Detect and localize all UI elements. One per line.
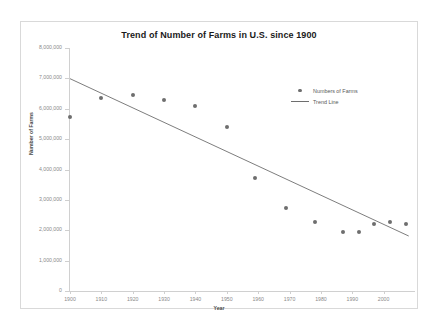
x-tick <box>101 291 102 294</box>
x-tick <box>227 291 228 294</box>
plot-area <box>70 48 415 291</box>
chart-screenshot: Trend of Number of Farms in U.S. since 1… <box>0 0 437 334</box>
y-tick-label: 3,000,000 <box>39 196 62 202</box>
dot-icon <box>298 89 302 93</box>
x-tick <box>195 291 196 294</box>
y-tick-label: 0 <box>59 287 62 293</box>
data-point <box>68 115 72 119</box>
x-tick <box>133 291 134 294</box>
legend-line-icon <box>289 101 311 102</box>
legend-marker-icon <box>289 89 311 93</box>
y-tick: 3,000,000 <box>65 200 69 201</box>
legend-item[interactable]: Trend Line <box>289 96 358 107</box>
y-tick-label: 6,000,000 <box>39 105 62 111</box>
x-tick <box>290 291 291 294</box>
y-tick: 6,000,000 <box>65 109 69 110</box>
legend-label: Numbers of Farms <box>311 88 358 94</box>
x-tick-label: 1910 <box>96 296 108 302</box>
x-tick-label: 1960 <box>252 296 264 302</box>
y-tick-label: 8,000,000 <box>39 44 62 50</box>
legend-label: Trend Line <box>311 99 339 105</box>
y-tick: 2,000,000 <box>65 230 69 231</box>
x-tick-label: 1930 <box>158 296 170 302</box>
y-tick: 5,000,000 <box>65 139 69 140</box>
data-point <box>404 222 408 226</box>
x-tick-label: 1900 <box>64 296 76 302</box>
y-tick: 4,000,000 <box>65 170 69 171</box>
y-tick: 8,000,000 <box>65 48 69 49</box>
data-point <box>162 98 166 102</box>
x-tick <box>384 291 385 294</box>
x-tick <box>321 291 322 294</box>
line-icon <box>291 101 309 102</box>
trend-line <box>70 48 415 291</box>
y-tick-label: 7,000,000 <box>39 74 62 80</box>
x-tick-label: 1970 <box>284 296 296 302</box>
y-tick-label: 5,000,000 <box>39 135 62 141</box>
y-tick-label: 1,000,000 <box>39 257 62 263</box>
chart-legend: Numbers of FarmsTrend Line <box>289 85 358 107</box>
legend-item[interactable]: Numbers of Farms <box>289 85 358 96</box>
x-tick-label: 1940 <box>190 296 202 302</box>
x-tick-label: 1980 <box>315 296 327 302</box>
x-tick-label: 1920 <box>127 296 139 302</box>
chart-title: Trend of Number of Farms in U.S. since 1… <box>21 30 417 40</box>
y-tick: 0 <box>65 291 69 292</box>
trend-line-path <box>70 79 409 236</box>
y-tick-label: 2,000,000 <box>39 226 62 232</box>
x-axis-line <box>69 291 415 292</box>
x-tick <box>352 291 353 294</box>
x-axis-title: Year <box>21 305 417 311</box>
data-point <box>131 93 135 97</box>
y-tick-label: 4,000,000 <box>39 166 62 172</box>
data-point <box>357 230 361 234</box>
x-tick <box>258 291 259 294</box>
x-tick-label: 1950 <box>221 296 233 302</box>
y-axis-title: Number of Farms <box>28 112 34 155</box>
x-tick <box>164 291 165 294</box>
y-tick: 1,000,000 <box>65 261 69 262</box>
x-tick-label: 2000 <box>378 296 390 302</box>
x-tick <box>70 291 71 294</box>
x-tick-label: 1990 <box>346 296 358 302</box>
chart-frame: Trend of Number of Farms in U.S. since 1… <box>20 21 418 309</box>
y-tick: 7,000,000 <box>65 78 69 79</box>
